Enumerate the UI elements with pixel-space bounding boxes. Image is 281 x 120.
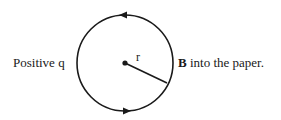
- field-label: B into the paper.: [178, 55, 264, 71]
- arrow-top-left-icon: [119, 12, 127, 19]
- field-symbol: B: [178, 55, 187, 70]
- radius-line: [125, 63, 167, 83]
- radius-label: r: [136, 50, 140, 65]
- arrow-bottom-right-icon: [123, 108, 131, 115]
- charge-label: Positive q: [13, 55, 65, 71]
- field-description: into the paper.: [187, 55, 264, 70]
